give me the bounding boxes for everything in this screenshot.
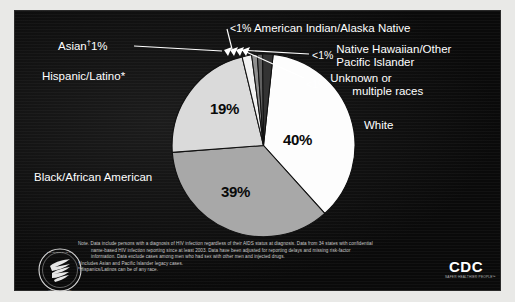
callout-native-hawaiian-line2: Pacific Islander (336, 56, 414, 68)
footnote-line-2: name-based HIV infection reporting since… (78, 248, 448, 255)
callout-unknown-line2: multiple races (352, 85, 423, 97)
callout-black-african-american-label: Black/African American (34, 171, 152, 183)
callout-native-hawaiian-line1: Native Hawaiian/Other (336, 43, 451, 55)
chart-footnotes: Note. Data include persons with a diagno… (78, 241, 448, 274)
chart-panel: 40% 39% 19% As (14, 10, 501, 291)
callout-native-hawaiian-pacific-islander: <1% Native Hawaiian/Other Pacific Island… (312, 43, 451, 68)
hhs-seal-icon: DEPARTMENT OF HEALTH HUMAN SERVICES USA (36, 246, 84, 294)
callout-asian: Asian†1% (58, 40, 108, 53)
footnote-line-3: information. Data exclude cases among me… (78, 254, 448, 261)
callout-american-indian-alaska-native: <1% American Indian/Alaska Native (230, 22, 410, 35)
slide-canvas: 40% 39% 19% As (0, 0, 515, 302)
callout-unknown-line1: Unknown or (330, 72, 391, 84)
cdc-wordmark: CDC (445, 259, 487, 274)
callout-american-indian-label: American Indian/Alaska Native (254, 22, 411, 34)
callout-black-african-american: Black/African American (34, 171, 152, 184)
callout-white-label: White (364, 119, 393, 131)
footnote-line-1: Note. Data include persons with a diagno… (78, 241, 448, 248)
callout-hispanic-latino: Hispanic/Latino* (42, 70, 125, 83)
callout-asian-pct: 1% (91, 40, 108, 52)
pie-value-white: 40% (283, 131, 312, 148)
callout-hispanic-latino-label: Hispanic/Latino* (42, 70, 125, 82)
callout-unknown-multiple-races: <1% Unknown or multiple races (306, 72, 399, 97)
pie-value-hispanic-latino: 19% (210, 100, 239, 117)
callout-white: White (364, 119, 393, 132)
cdc-logo: CDC SAFER·HEALTHIER·PEOPLE™ (445, 259, 487, 279)
footnote-line-4: †Includes Asian and Pacific Islander leg… (78, 261, 448, 268)
callout-asian-label: Asian (58, 40, 87, 52)
callout-american-indian-pct: <1% (230, 22, 251, 34)
cdc-tagline: SAFER·HEALTHIER·PEOPLE™ (445, 275, 487, 279)
svg-text:HUMAN SERVICES USA: HUMAN SERVICES USA (48, 289, 72, 291)
footnote-line-5: *Hispanics/Latinos can be of any race. (78, 267, 448, 274)
svg-text:DEPARTMENT OF HEALTH: DEPARTMENT OF HEALTH (47, 251, 74, 253)
callout-unknown-pct: <1% (306, 78, 327, 91)
leader-asian (134, 46, 222, 51)
pie-value-black-african-american: 39% (221, 183, 250, 200)
callout-native-hawaiian-pct: <1% (312, 49, 333, 62)
